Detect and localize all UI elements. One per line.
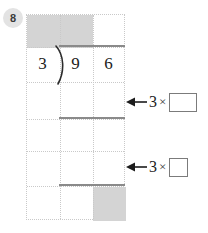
shaded-cell-quotient-tens[interactable] <box>27 15 60 48</box>
worksheet-page: 8 3 9 6 3 × <box>0 0 208 233</box>
gridline-horizontal <box>27 186 124 187</box>
subtraction-rule-2 <box>59 184 125 186</box>
multiply-operator-icon: × <box>159 159 166 175</box>
gridline-horizontal <box>27 119 124 120</box>
multiplier-value: 3 <box>149 158 157 176</box>
gridline-horizontal <box>27 151 124 152</box>
dividend-digit-tens: 9 <box>59 47 92 81</box>
dividend-digit-ones: 6 <box>92 47 125 81</box>
annotation-multiply-2: 3 × <box>126 156 188 178</box>
annotation-multiply-1: 3 × <box>126 91 197 113</box>
answer-box-2[interactable] <box>169 158 188 177</box>
left-arrow-icon <box>126 96 148 108</box>
subtraction-rule-1 <box>59 117 125 119</box>
gridline-horizontal <box>27 82 124 83</box>
left-arrow-icon <box>126 161 148 173</box>
question-number-badge: 8 <box>3 8 23 28</box>
shaded-cell-remainder[interactable] <box>93 187 126 221</box>
multiply-operator-icon: × <box>159 94 166 110</box>
answer-box-1[interactable] <box>169 93 197 112</box>
multiplier-value: 3 <box>149 93 157 111</box>
shaded-cell-quotient-ones[interactable] <box>60 15 93 48</box>
